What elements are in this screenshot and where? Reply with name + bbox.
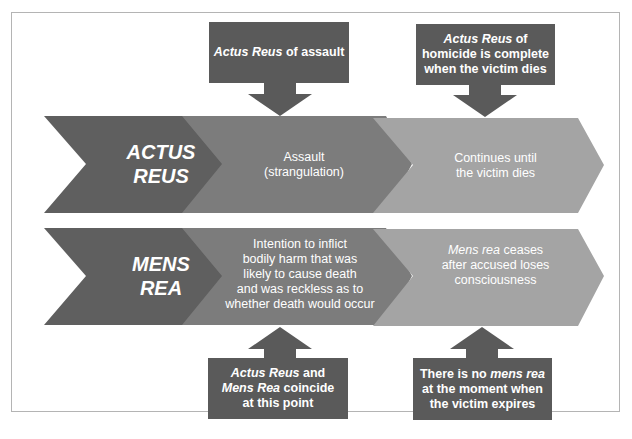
text-line: at the moment when (420, 382, 545, 397)
callout-top-right: Actus Reus of homicide is complete when … (416, 24, 555, 85)
text-line: likely to cause death (225, 267, 374, 282)
text-line: Actus Reus of (422, 32, 549, 47)
text-line: homicide is complete (422, 47, 549, 62)
header-line: REUS (127, 165, 196, 189)
actus-reus-stage2-label: Continues until the victim dies (413, 118, 578, 213)
text-span: ceases (500, 243, 543, 257)
actus-reus-stage1-label: Assault (strangulation) (222, 116, 386, 213)
italic-term: Mens Rea (222, 381, 280, 395)
text-line: Actus Reus and (222, 366, 335, 381)
text-line: whether death would occur (225, 297, 374, 312)
mens-rea-stage1-label: Intention to inflict bodily harm that wa… (200, 228, 400, 320)
text-line: Mens rea ceases (442, 243, 550, 258)
text-line: after accused loses (442, 258, 550, 273)
text-line: (strangulation) (264, 165, 344, 180)
text-line: bodily harm that was (225, 252, 374, 267)
text-line: Intention to inflict (225, 237, 374, 252)
text-line: the victim dies (454, 166, 537, 181)
italic-term: Actus Reus (443, 32, 512, 46)
text-line: when the victim dies (422, 62, 549, 77)
text-line: Assault (264, 150, 344, 165)
text-line: There is no mens rea (420, 367, 545, 382)
text-line: at this point (222, 396, 335, 411)
callout-top-left: Actus Reus of assault (209, 22, 349, 83)
mens-rea-stage2-label: Mens rea ceases after accused loses cons… (413, 229, 578, 301)
text-line: consciousness (442, 273, 550, 288)
callout-bottom-left: Actus Reus and Mens Rea coincide at this… (208, 358, 348, 419)
header-line: MENS (132, 253, 190, 277)
actus-reus-header-label: ACTUS REUS (86, 116, 236, 213)
italic-term: Actus Reus (214, 45, 283, 59)
italic-term: Mens rea (448, 243, 500, 257)
text-span: of assault (282, 45, 344, 59)
callout-bottom-right: There is no mens rea at the moment when … (413, 358, 552, 420)
text-span: and (300, 366, 326, 380)
text-line: and was reckless as to (225, 282, 374, 297)
header-line: ACTUS (127, 141, 196, 165)
text-line: Continues until (454, 151, 537, 166)
text-line: the victim expires (420, 397, 545, 412)
text-span: There is no (420, 367, 490, 381)
text-line: Mens Rea coincide (222, 381, 335, 396)
text-span: of (512, 32, 527, 46)
italic-term: Actus Reus (231, 366, 300, 380)
header-line: REA (132, 277, 190, 301)
italic-term: mens rea (490, 367, 545, 381)
text-span: coincide (280, 381, 334, 395)
